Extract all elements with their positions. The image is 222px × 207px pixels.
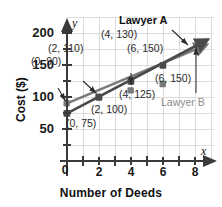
y-tick-label-50: 50 bbox=[22, 121, 54, 136]
leader-lawyer-a bbox=[172, 30, 188, 45]
x-tick-label-6: 6 bbox=[153, 165, 173, 179]
y-tick-label-200: 200 bbox=[22, 25, 54, 40]
leader-0-90 bbox=[58, 88, 66, 101]
x-tick-label-0: 0 bbox=[55, 163, 75, 177]
x-axis-title: Number of Deeds bbox=[0, 186, 222, 200]
point-label-4-125: (4, 125) bbox=[119, 88, 155, 100]
point-label-2-100: (2, 100) bbox=[91, 103, 127, 115]
point-label-4-130: (4, 130) bbox=[101, 28, 137, 40]
point-label-2-110: (2, 110) bbox=[48, 42, 83, 54]
point-label-0-90: (0, 90) bbox=[31, 55, 61, 67]
point-label-6-150-a: (6, 150) bbox=[127, 42, 163, 54]
x-tick-label-4: 4 bbox=[121, 165, 141, 179]
y-axis-variable-label: y bbox=[72, 16, 77, 31]
y-axis-title: Cost ($) bbox=[14, 77, 28, 122]
series-label-lawyer-a: Lawyer A bbox=[119, 14, 168, 26]
x-axis-variable-label: x bbox=[201, 144, 206, 159]
x-tick-label-8: 8 bbox=[185, 165, 205, 179]
point-label-6-150-b: (6, 150) bbox=[155, 72, 191, 84]
point-label-0-75: (0, 75) bbox=[66, 117, 96, 129]
x-tick-label-2: 2 bbox=[89, 165, 109, 179]
chart-container: 200 150 100 50 0 2 4 6 8 y x Number of D… bbox=[0, 0, 222, 207]
leader-2-110 bbox=[83, 81, 97, 94]
series-label-lawyer-b: Lawyer B bbox=[161, 96, 205, 108]
